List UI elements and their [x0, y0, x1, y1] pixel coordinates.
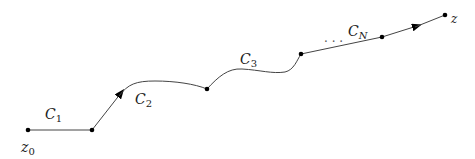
segment-c2 [119, 81, 207, 96]
label-z: z [451, 13, 457, 25]
contour-paths [0, 0, 475, 159]
label-c1: C1 [45, 107, 62, 124]
label-c3: C3 [240, 52, 257, 69]
segment-final [382, 26, 417, 37]
point-z0 [26, 128, 31, 133]
label-ellipsis: · · · [324, 36, 343, 48]
segment-final-end [415, 15, 445, 27]
point-z [443, 13, 448, 18]
label-c2: C2 [135, 92, 152, 109]
point-p4 [380, 35, 385, 40]
point-p1 [90, 128, 95, 133]
contour-diagram: z0 C1 C2 C3 · · · CN z [0, 0, 475, 159]
segment-c2-rise [92, 93, 121, 130]
point-p3 [299, 52, 304, 57]
label-z0: z0 [21, 140, 35, 157]
point-p2 [205, 87, 210, 92]
label-cn: CN [348, 24, 367, 41]
